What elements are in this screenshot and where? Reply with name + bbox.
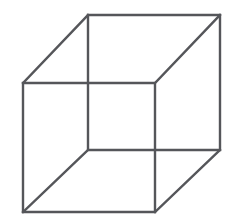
cube-connector-bottom-left bbox=[23, 150, 88, 212]
necker-cube-drawing bbox=[0, 0, 234, 223]
cube-connector-top-right bbox=[155, 15, 220, 83]
necker-cube-figure bbox=[0, 0, 234, 223]
cube-connector-bottom-right bbox=[155, 150, 220, 212]
cube-connector-top-left bbox=[23, 15, 88, 83]
